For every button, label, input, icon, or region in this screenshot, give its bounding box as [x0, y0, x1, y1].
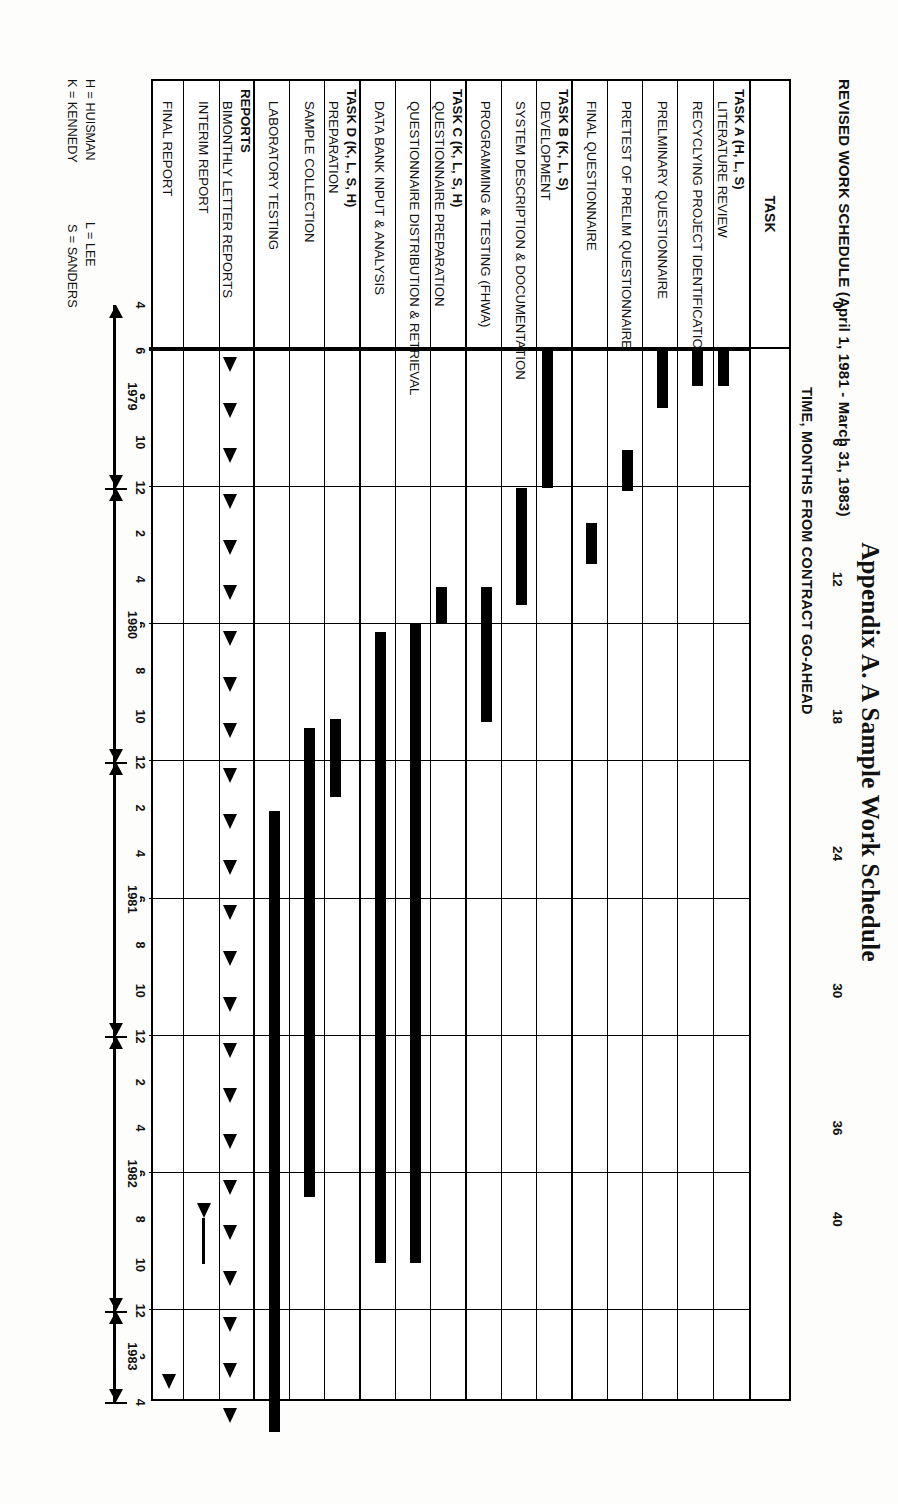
- months-bottom-scale: 468101224681012246810122468101224: [127, 305, 147, 1357]
- row-separator: [465, 349, 467, 1401]
- task-label: PREPARATION: [327, 101, 340, 194]
- month-tick: 12: [133, 481, 147, 495]
- grid-line-month-18: [149, 760, 749, 761]
- grid-line-month-30: [149, 1035, 749, 1036]
- gantt-bar: [718, 349, 729, 386]
- milestone-marker: [223, 1225, 237, 1240]
- milestone-marker: [223, 448, 237, 463]
- milestone-marker: [223, 357, 237, 372]
- milestone-marker: [223, 540, 237, 555]
- month-tick: 4: [133, 1399, 147, 1406]
- page-root: REVISED WORK SCHEDULE (April 1, 1981 - M…: [0, 0, 898, 1504]
- gantt-bar: [692, 349, 703, 386]
- gantt-bar: [330, 719, 341, 797]
- task-label: LITERATURE REVIEW: [715, 101, 728, 238]
- task-group-header: REPORTS: [239, 89, 252, 153]
- milestone-marker: [223, 860, 237, 875]
- row-separator: [642, 81, 643, 347]
- row-separator: [571, 349, 573, 1401]
- row-separator: [253, 349, 255, 1401]
- gantt-bar: [269, 811, 280, 1433]
- row-separator: [430, 349, 431, 1401]
- year-label: 1980: [125, 608, 140, 642]
- year-span-arrow-right: [109, 1023, 123, 1036]
- milestone-marker: [223, 905, 237, 920]
- month-tick: 10: [133, 709, 147, 723]
- milestone-marker: [223, 631, 237, 646]
- milestone-marker: [223, 1408, 237, 1423]
- row-separator: [324, 349, 325, 1401]
- milestone-marker: [223, 951, 237, 966]
- top-tick-0: 0: [830, 301, 845, 309]
- schedule-frame: TASK TASK A (H, L, S)LITERATURE REVIEWRE…: [151, 79, 791, 1401]
- gantt-bar: [516, 488, 527, 605]
- figure-caption: Appendix A. A Sample Work Schedule: [856, 542, 884, 962]
- milestone-marker: [223, 1043, 237, 1058]
- year-span-arrow-left: [109, 488, 123, 501]
- milestone-marker: [223, 997, 237, 1012]
- row-separator: [536, 349, 537, 1401]
- month-tick: 2: [133, 1079, 147, 1086]
- year-span-arrow-left: [109, 1036, 123, 1049]
- gantt-bar: [586, 523, 597, 564]
- row-separator: [642, 349, 643, 1401]
- gantt-bar: [542, 349, 553, 488]
- month-tick: 12: [133, 1304, 147, 1318]
- month-tick: 4: [133, 576, 147, 583]
- task-group-header: TASK A (H, L, S): [733, 89, 746, 190]
- row-separator: [289, 81, 290, 347]
- year-span-line: [113, 762, 116, 1036]
- task-label: FINAL REPORT: [161, 101, 174, 196]
- legend-k: K = KENNEDY: [65, 79, 79, 162]
- milestone-marker: [223, 494, 237, 509]
- legend-h: H = HUISMAN: [83, 79, 97, 161]
- row-separator: [713, 81, 714, 347]
- row-separator: [395, 81, 396, 347]
- top-tick-12: 12: [830, 572, 845, 587]
- grid-line-month-6: [149, 486, 749, 487]
- row-separator: [501, 81, 502, 347]
- month-tick: 8: [133, 1216, 147, 1223]
- row-separator: [501, 349, 502, 1401]
- task-label: SYSTEM DESCRIPTION & DOCUMENTATION: [514, 101, 527, 380]
- gantt-bar: [410, 623, 421, 1263]
- legend-l: L = LEE: [81, 222, 99, 267]
- gantt-bar: [481, 587, 492, 722]
- year-label: 1981: [125, 882, 140, 916]
- milestone-marker: [223, 403, 237, 418]
- month-tick: 2: [133, 804, 147, 811]
- row-separator: [713, 349, 714, 1401]
- row-separator: [607, 81, 608, 347]
- task-label: PRELMINARY QUESTIONNAIRE: [655, 101, 668, 299]
- row-separator: [359, 81, 361, 347]
- year-span-line: [113, 1036, 116, 1310]
- year-scale: 19791980198119821983: [85, 305, 125, 1357]
- table-header: TASK: [749, 81, 789, 1399]
- milestone-marker: [197, 1203, 211, 1218]
- task-group-header: TASK D (K, L, S, H): [345, 89, 358, 207]
- month-tick: 12: [133, 1029, 147, 1043]
- task-label: RECYCLYING PROJECT IDENTIFICATION: [691, 101, 704, 358]
- top-tick-40: 40: [830, 1212, 845, 1227]
- row-separator: [183, 81, 184, 347]
- year-span-arrow-left: [109, 1311, 123, 1324]
- grid-line-month-42: [149, 1309, 749, 1310]
- month-tick: 10: [133, 1258, 147, 1272]
- task-label: INTERIM REPORT: [197, 101, 210, 214]
- milestone-marker: [223, 1134, 237, 1149]
- month-tick: 8: [133, 942, 147, 949]
- gantt-bar: [436, 587, 447, 624]
- grid-line-month-36: [149, 1172, 749, 1173]
- legend-s: S = SANDERS: [63, 224, 81, 308]
- milestone-marker: [162, 1374, 176, 1389]
- milestone-marker: [223, 1088, 237, 1103]
- task-group-header: TASK B (K, L, S): [556, 89, 569, 191]
- milestone-marker: [223, 768, 237, 783]
- milestone-marker: [223, 1271, 237, 1286]
- legend: H = HUISMAN L = LEE K = KENNEDY S = SAND…: [63, 79, 100, 308]
- task-label: LABORATORY TESTING: [267, 101, 280, 250]
- row-separator: [571, 81, 573, 347]
- milestone-marker: [223, 814, 237, 829]
- milestone-marker: [223, 585, 237, 600]
- year-label: 1979: [125, 379, 140, 413]
